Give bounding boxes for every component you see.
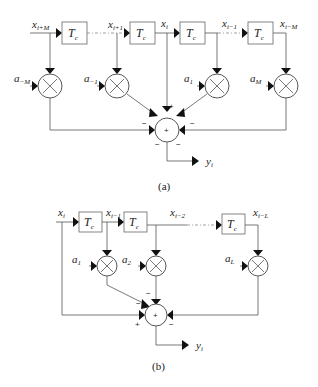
svg-text:yi: yi <box>205 155 213 169</box>
svg-text:xi−2: xi−2 <box>169 206 186 220</box>
svg-text:xi: xi <box>160 17 168 31</box>
diagram-b: xi xi−1 xi−2 xi−L Tc Tc Tc <box>56 206 269 373</box>
svg-text:aM: aM <box>250 72 263 86</box>
fir-filter-diagrams: Tc Tc Tc Tc xi+M xi+1 xi xi−1 xi−M <box>0 0 318 387</box>
multiplier <box>97 256 117 276</box>
multiplier <box>38 74 62 98</box>
svg-text:yi: yi <box>195 339 203 353</box>
svg-text:aL: aL <box>225 252 235 266</box>
multiplier <box>105 74 129 98</box>
svg-text:xi: xi <box>57 206 65 220</box>
svg-text:+: + <box>164 126 169 135</box>
arrow-icon <box>242 28 248 38</box>
multiplier <box>146 256 166 276</box>
multiplier <box>248 256 268 276</box>
summing-junction: + <box>155 118 179 142</box>
svg-text:a2: a2 <box>122 253 132 267</box>
multiplier <box>205 74 229 98</box>
svg-text:−: − <box>190 119 195 128</box>
svg-text:−: − <box>136 299 141 308</box>
arrow-icon <box>124 28 130 38</box>
svg-text:xi−M: xi−M <box>279 17 299 31</box>
caption-a: (a) <box>158 180 171 193</box>
svg-text:xi+1: xi+1 <box>107 18 123 32</box>
svg-text:xi−1: xi−1 <box>221 17 237 31</box>
multiplier <box>274 74 298 98</box>
svg-text:−: − <box>142 119 147 128</box>
diagram-a: Tc Tc Tc Tc xi+M xi+1 xi xi−1 xi−M <box>14 17 299 193</box>
svg-text:+: + <box>153 311 158 320</box>
svg-text:−: − <box>146 289 151 298</box>
svg-text:a−M: a−M <box>14 72 31 86</box>
svg-text:xi−L: xi−L <box>252 206 269 220</box>
arrow-icon <box>56 28 62 38</box>
svg-text:−: − <box>169 320 174 329</box>
summing-junction: + <box>145 304 167 326</box>
arrow-icon <box>174 28 180 38</box>
svg-text:a1: a1 <box>72 253 81 267</box>
svg-text:+: + <box>135 320 140 329</box>
caption-b: (b) <box>152 360 165 373</box>
svg-text:a−1: a−1 <box>84 72 98 86</box>
svg-text:−: − <box>176 140 181 149</box>
svg-text:a1: a1 <box>184 72 193 86</box>
svg-text:−: − <box>155 140 160 149</box>
svg-text:xi+M: xi+M <box>31 18 51 32</box>
svg-text:+: + <box>169 102 174 111</box>
